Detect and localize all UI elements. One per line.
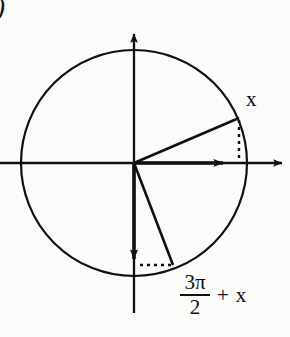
terminal-ray-three-pi-over-two-plus-x	[134, 163, 173, 265]
fraction: 3π 2	[180, 272, 210, 318]
unit-circle-figure: ) x 3π 2 + x	[0, 0, 290, 337]
angle-label-three-pi-over-two-plus-x: 3π 2 + x	[180, 272, 246, 318]
fraction-numerator: 3π	[181, 272, 208, 294]
angle-label-x: x	[246, 89, 257, 110]
plus-operator: +	[217, 285, 229, 306]
list-item-marker: )	[0, 0, 5, 21]
operand-x: x	[236, 285, 247, 306]
fraction-denominator: 2	[187, 296, 204, 318]
terminal-ray-x	[134, 118, 239, 163]
figure-canvas	[0, 0, 290, 337]
